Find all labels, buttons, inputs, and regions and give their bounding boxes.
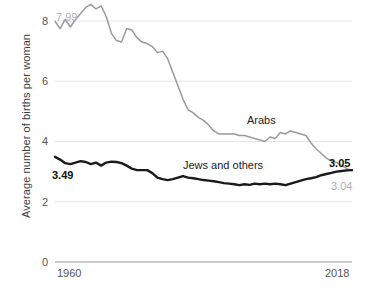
annotation-start-arabs: 7.99 (56, 12, 77, 23)
fertility-line-chart: Average number of births per woman 8 6 4… (0, 0, 365, 290)
series-line-arabs (55, 4, 352, 170)
annotation-start-jews: 3.49 (52, 170, 73, 181)
plot-canvas (0, 0, 365, 290)
x-tick-1960: 1960 (57, 268, 81, 279)
series-label-jews: Jews and others (183, 160, 263, 171)
series-label-arabs: Arabs (247, 115, 276, 126)
annotation-end-arabs: 3.04 (331, 181, 352, 192)
gridlines (55, 21, 352, 202)
annotation-end-jews: 3.05 (329, 158, 350, 169)
x-tick-2018: 2018 (325, 268, 349, 279)
